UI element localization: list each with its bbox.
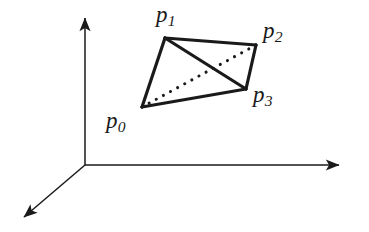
edge-p1-p3: [165, 38, 246, 89]
vertex-label-p3-base: p: [253, 82, 265, 107]
vertex-label-p3-subscript: 3: [265, 92, 273, 109]
vertex-label-p1-subscript: 1: [168, 12, 176, 29]
edge-p0-p1: [142, 38, 165, 107]
vertex-label-p3: p3: [253, 83, 272, 106]
vertex-label-p2: p2: [263, 19, 282, 42]
tetrahedron-diagram: p0 p1 p2 p3: [0, 0, 369, 232]
tetrahedron-visible-edges: [142, 38, 256, 107]
vertex-label-p1: p1: [156, 3, 175, 26]
vertex-label-p1-base: p: [156, 2, 168, 27]
vertex-label-p2-base: p: [263, 18, 275, 43]
vertex-label-p0: p0: [106, 109, 125, 132]
vertex-label-p0-subscript: 0: [118, 118, 126, 135]
z-axis: [24, 165, 85, 217]
diagram-canvas: [0, 0, 369, 232]
edge-p1-p2: [165, 38, 256, 45]
vertex-label-p0-base: p: [106, 108, 118, 133]
edge-p3-p0: [142, 89, 246, 107]
vertex-label-p2-subscript: 2: [275, 28, 283, 45]
